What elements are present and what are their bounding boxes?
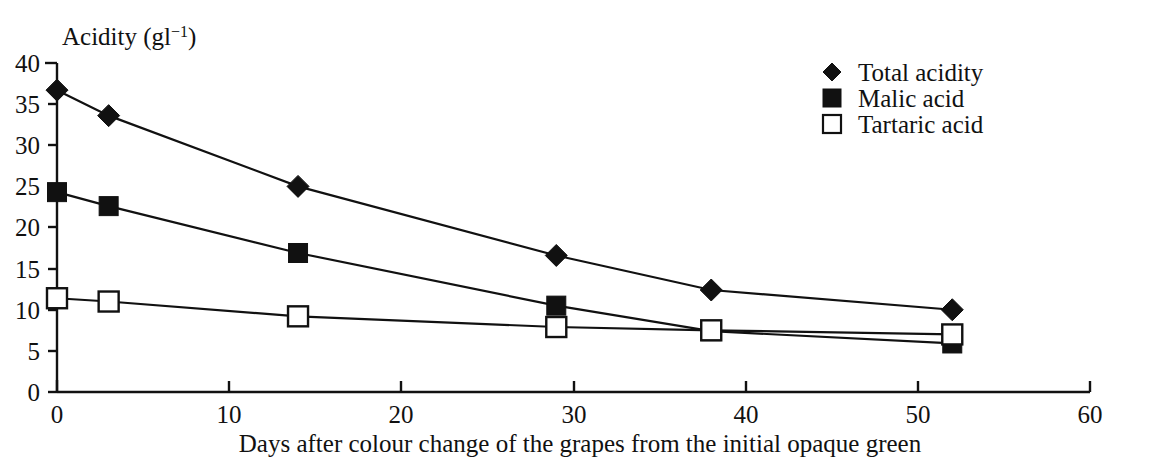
marker-filled-diamond [98,105,120,127]
legend-filled-diamond-icon [823,63,841,81]
x-tick-label-50: 50 [906,401,931,428]
series-line-tartaric-acid [57,298,952,334]
y-tick-label-20: 20 [15,214,40,241]
y-tick-label-5: 5 [28,338,41,365]
marker-filled-diamond [700,279,722,301]
marker-open-square [942,324,962,344]
x-axis-title: Days after colour change of the grapes f… [239,430,922,457]
acidity-line-chart: Acidity (gl−1) 40 35 30 25 20 15 10 5 [0,0,1160,466]
marker-open-square [47,288,67,308]
x-tick-label-30: 30 [562,401,587,428]
y-tick-label-0: 0 [28,379,41,406]
x-tick-label-10: 10 [217,401,242,428]
x-axis-ticks [57,380,1090,392]
y-tick-label-10: 10 [15,297,40,324]
y-tick-label-35: 35 [15,91,40,118]
x-tick-label-20: 20 [389,401,414,428]
marker-open-square [288,306,308,326]
marker-filled-square [547,296,566,315]
marker-filled-diamond [941,299,963,321]
series-line-total-acidity [57,90,952,310]
x-axis-title-text: Days after colour change of the grapes f… [239,430,922,457]
y-tick-label-25: 25 [15,173,40,200]
series-lines [57,90,952,343]
y-axis-tick-labels: 40 35 30 25 20 15 10 5 0 [15,50,40,406]
x-tick-label-40: 40 [734,401,759,428]
marker-filled-diamond [545,244,567,266]
series-line-malic-acid [57,192,952,343]
marker-open-square [99,292,119,312]
x-tick-label-0: 0 [51,401,64,428]
chart-canvas: Acidity (gl−1) 40 35 30 25 20 15 10 5 [0,0,1160,466]
legend-item-tartaric-acid: Tartaric acid [823,111,984,138]
x-axis-tick-labels: 0 10 20 30 40 50 60 [51,401,1103,428]
chart-legend: Total acidity Malic acid Tartaric acid [823,59,984,138]
x-tick-label-60: 60 [1078,401,1103,428]
marker-open-square [701,320,721,340]
legend-filled-square-icon [823,89,841,107]
y-tick-label-40: 40 [15,50,40,77]
legend-item-malic-acid: Malic acid [823,85,965,112]
y-tick-label-15: 15 [15,256,40,283]
y-axis-title-text: Acidity (gl−1) [62,23,196,51]
legend-label-tartaric-acid: Tartaric acid [858,111,984,138]
y-axis-ticks [45,63,57,392]
marker-filled-square [48,183,67,202]
legend-open-square-icon [823,115,841,133]
legend-label-total-acidity: Total acidity [858,59,984,86]
legend-label-malic-acid: Malic acid [858,85,965,112]
legend-item-total-acidity: Total acidity [823,59,984,86]
marker-filled-diamond [287,175,309,197]
y-axis-title: Acidity (gl−1) [62,23,196,51]
y-tick-label-30: 30 [15,132,40,159]
y-axis-title-superscript: −1 [171,23,188,40]
y-axis-title-base: Acidity (gl [62,23,171,51]
y-axis-title-close: ) [188,23,196,51]
marker-open-square [546,317,566,337]
marker-filled-square [99,197,118,216]
marker-filled-square [289,243,308,262]
marker-filled-diamond [46,79,68,101]
